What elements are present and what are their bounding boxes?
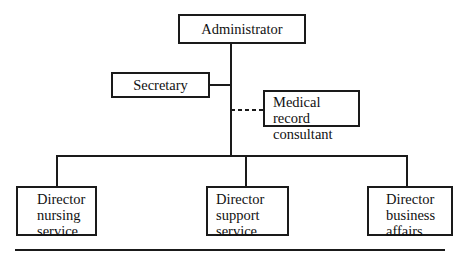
nursing-line3: service [37,223,95,239]
business-line2: business [386,207,451,223]
director-support-box: Director support service [206,186,289,236]
medical-record-line2: consultant [273,126,358,142]
support-line3: service [216,223,287,239]
org-chart: Administrator Secretary Medical record c… [0,0,460,254]
director-nursing-box: Director nursing service [16,186,97,236]
director-business-box: Director business affairs [367,186,453,236]
administrator-box: Administrator [178,14,306,44]
nursing-line2: nursing [37,207,95,223]
administrator-label: Administrator [201,21,282,37]
business-line1: Director [386,191,451,207]
medical-record-line1: Medical record [273,94,358,126]
medical-record-consultant-box: Medical record consultant [263,90,360,127]
secretary-box: Secretary [111,72,210,98]
support-line1: Director [216,191,287,207]
business-line3: affairs [386,223,451,239]
support-line2: support [216,207,287,223]
nursing-line1: Director [37,191,95,207]
secretary-label: Secretary [133,77,188,93]
